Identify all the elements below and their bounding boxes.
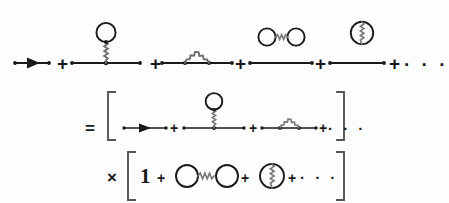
plus-operator: + bbox=[241, 171, 249, 185]
plus-operator: + bbox=[315, 54, 326, 73]
diagram-split-bubble-row3 bbox=[260, 164, 284, 188]
plus-operator: + bbox=[157, 171, 165, 185]
diagram-split-bubble-over-line-row1 bbox=[328, 22, 386, 65]
diagram-rainbow-row1 bbox=[160, 52, 234, 65]
plus-operator: + bbox=[235, 54, 246, 73]
plus-operator: + bbox=[249, 121, 257, 135]
diagram-tadpole-row1 bbox=[70, 23, 142, 65]
diagram-dumbbell-row3 bbox=[176, 165, 238, 187]
feynman-diagram-figure: .ln { stroke:#1a1a1a; stroke-width:1.9; … bbox=[0, 0, 449, 203]
diagram-bare-propagator-row2 bbox=[122, 124, 167, 133]
plus-operator: + bbox=[319, 121, 327, 135]
diagram-bare-propagator-row1 bbox=[13, 58, 51, 69]
ellipsis: · · · bbox=[404, 55, 449, 74]
ellipsis: · · · bbox=[300, 170, 338, 185]
times-operator: × bbox=[107, 169, 117, 186]
diagram-dumbbell-over-line-row1 bbox=[248, 28, 314, 65]
diagram-tadpole-row2 bbox=[182, 93, 245, 130]
diagram-rainbow-row2 bbox=[260, 119, 317, 130]
bracket-connected bbox=[108, 92, 344, 140]
plus-operator: + bbox=[150, 54, 161, 73]
unity-term: 1 bbox=[140, 166, 151, 187]
ellipsis: · · · bbox=[328, 121, 366, 136]
diagram-canvas: .ln { stroke:#1a1a1a; stroke-width:1.9; … bbox=[0, 0, 449, 203]
plus-operator: + bbox=[389, 54, 400, 73]
equals-operator: = bbox=[85, 120, 95, 137]
plus-operator: + bbox=[288, 171, 296, 185]
plus-operator: + bbox=[170, 121, 178, 135]
plus-operator: + bbox=[57, 54, 68, 73]
